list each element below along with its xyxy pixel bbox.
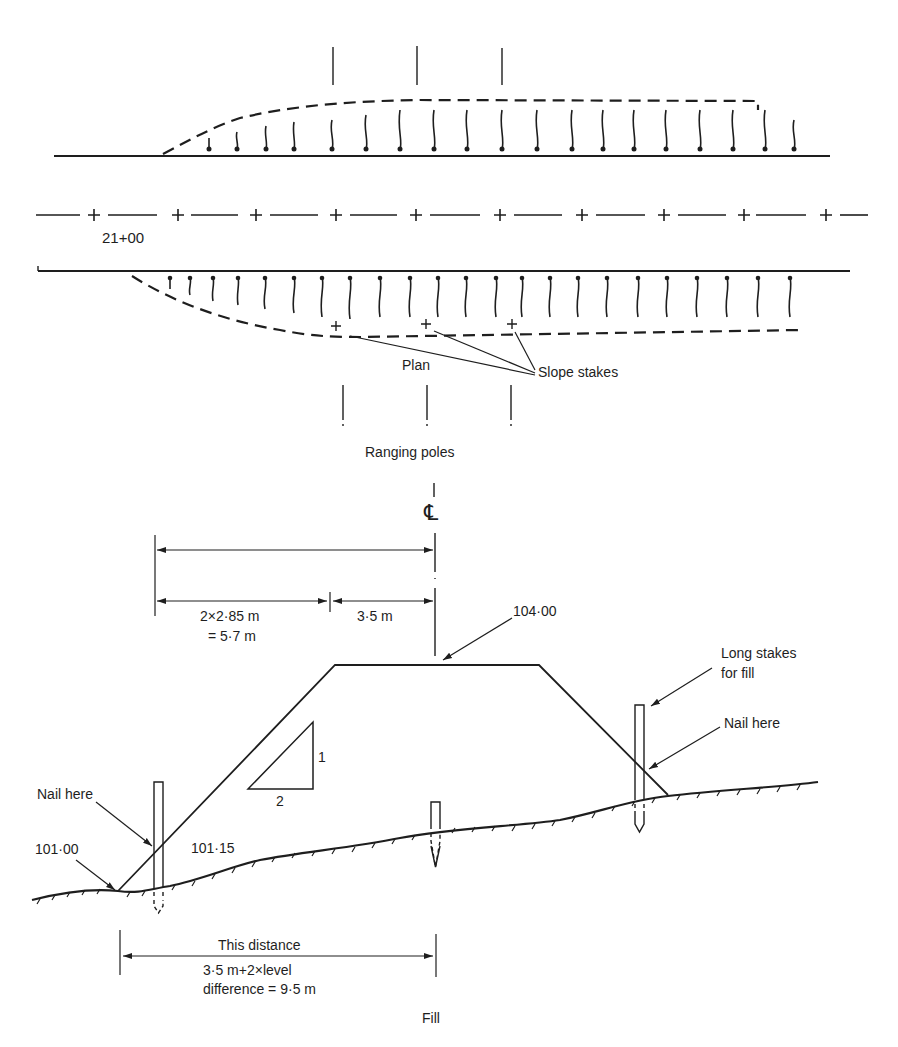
hatch-heads-lower	[168, 276, 793, 281]
slope-ratio-horizontal: 2	[276, 793, 284, 810]
nail-here-left-label: Nail here	[37, 786, 93, 803]
ground-line	[32, 782, 818, 900]
plan-caption: Plan	[402, 357, 430, 374]
ground-hatch	[37, 785, 800, 904]
ranging-poles-top	[333, 46, 502, 85]
ranging-poles-label: Ranging poles	[365, 444, 455, 461]
slope-ratio-triangle	[248, 722, 313, 789]
slope-stake-markers	[331, 319, 517, 331]
nail-here-right-leader	[649, 727, 720, 769]
top-level-leader	[443, 618, 512, 660]
section-caption: Fill	[422, 1010, 440, 1027]
slope-hatch-upper	[209, 110, 795, 150]
long-stakes-leader	[651, 668, 712, 706]
toe-line-upper	[163, 100, 758, 154]
nail-here-left-leader	[96, 802, 152, 846]
chainage-label: 21+00	[102, 229, 144, 246]
distance-label-3: difference = 9·5 m	[203, 981, 316, 998]
slope-ratio-vertical: 1	[318, 749, 326, 766]
stake-level-label: 101·15	[191, 840, 235, 857]
toe-level-leader	[76, 860, 115, 890]
dim-left-half-result: = 5·7 m	[208, 628, 256, 645]
stake-left	[154, 782, 163, 913]
dim-half-width-label: 3·5 m	[357, 608, 393, 625]
slope-stakes-label: Slope stakes	[538, 364, 618, 381]
centerline-plan	[36, 209, 868, 221]
dimension-top	[155, 535, 433, 616]
slope-hatch-lower	[170, 277, 791, 319]
fill-slope-staking-diagram	[0, 0, 898, 1047]
hatch-heads-upper	[207, 147, 797, 152]
toe-level-label: 101·00	[35, 841, 79, 858]
nail-here-right-label: Nail here	[724, 715, 780, 732]
stake-centre	[431, 802, 440, 867]
dim-left-half-label: 2×2·85 m	[200, 608, 260, 625]
long-stakes-label-1: Long stakes	[721, 645, 797, 662]
distance-label-1: This distance	[218, 937, 300, 954]
embankment-outline	[118, 665, 668, 891]
top-level-label: 104·00	[513, 603, 557, 620]
centerline-symbol: ℄	[424, 500, 438, 526]
distance-label-2: 3·5 m+2×level	[203, 962, 292, 979]
ranging-poles-bottom	[343, 385, 511, 426]
long-stakes-label-2: for fill	[721, 665, 754, 682]
